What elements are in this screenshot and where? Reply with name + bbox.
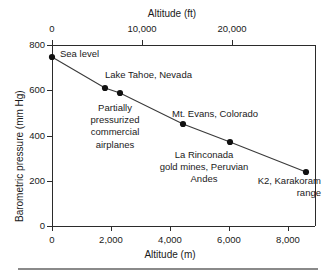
top-axis-title: Altitude (ft) [92, 8, 252, 19]
y-tick-label-400: 400 [5, 130, 45, 141]
y-axis-ticks [47, 45, 52, 226]
annotation-mt-evans: Mt. Evans, Colorado [172, 108, 258, 120]
annotation-airplanes: Partially pressurized commercial airplan… [73, 102, 157, 151]
x-tick-label-6000: 6,000 [204, 234, 254, 245]
x-axis-ticks-m [52, 226, 288, 231]
annotation-lake-tahoe: Lake Tahoe, Nevada [105, 69, 192, 81]
point-airplanes [117, 90, 123, 96]
bottom-axis-title: Altitude (m) [105, 249, 235, 260]
x-top-tick-label-20000: 20,000 [202, 23, 262, 34]
point-la-rinconada [227, 139, 233, 145]
x-tick-label-0: 0 [32, 234, 72, 245]
y-tick-label-200: 200 [5, 175, 45, 186]
x-top-tick-label-10000: 10,000 [112, 23, 172, 34]
x-tick-label-4000: 4,000 [145, 234, 195, 245]
y-tick-label-800: 800 [5, 39, 45, 50]
annotation-k2: K2, Karakoram range [215, 175, 321, 199]
point-mt-evans [180, 121, 186, 127]
altitude-pressure-chart: Altitude (ft) 0 10,000 20,000 Barometric… [0, 0, 336, 278]
x-top-tick-label-0: 0 [32, 23, 72, 34]
y-tick-label-600: 600 [5, 84, 45, 95]
y-axis-title: Barometric pressure (mm Hg) [14, 90, 25, 222]
y-tick-label-0: 0 [5, 220, 45, 231]
x-tick-label-2000: 2,000 [86, 234, 136, 245]
annotation-sea-level: Sea level [60, 48, 99, 60]
point-lake-tahoe [102, 85, 108, 91]
x-tick-label-8000: 8,000 [263, 234, 313, 245]
x-axis-ticks-ft [52, 40, 232, 45]
point-sea-level [49, 54, 55, 60]
